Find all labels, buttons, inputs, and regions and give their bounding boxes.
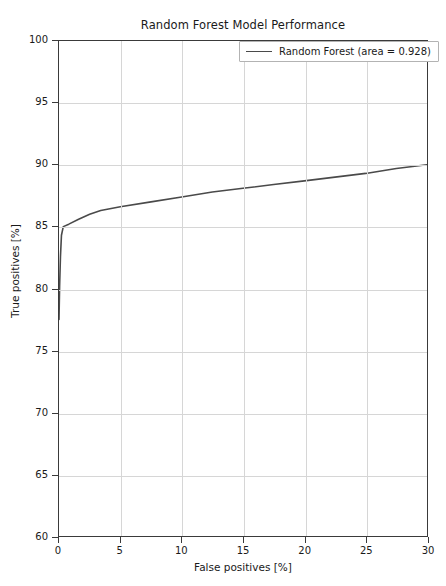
x-axis-tick-label: 30 bbox=[408, 545, 446, 556]
gridline-horizontal bbox=[59, 352, 427, 353]
y-axis-tick bbox=[52, 475, 58, 476]
y-axis-tick-label: 80 bbox=[0, 283, 48, 294]
y-axis-tick-label: 85 bbox=[0, 220, 48, 231]
x-axis-tick bbox=[305, 537, 306, 543]
y-axis-tick-label: 75 bbox=[0, 345, 48, 356]
gridline-horizontal bbox=[59, 103, 427, 104]
gridline-vertical bbox=[367, 41, 368, 536]
gridline-vertical bbox=[306, 41, 307, 536]
y-axis-tick-label: 70 bbox=[0, 407, 48, 418]
y-axis-tick-label: 95 bbox=[0, 96, 48, 107]
chart-figure: Random Forest Model Performance True pos… bbox=[0, 0, 446, 586]
x-axis-tick bbox=[58, 537, 59, 543]
legend-line-swatch bbox=[246, 51, 272, 52]
gridline-vertical bbox=[244, 41, 245, 536]
legend-item-label: Random Forest (area = 0.928) bbox=[279, 46, 431, 57]
page-title: Random Forest Model Performance bbox=[58, 18, 428, 32]
gridline-vertical bbox=[121, 41, 122, 536]
gridline-horizontal bbox=[59, 290, 427, 291]
x-axis-tick bbox=[243, 537, 244, 543]
x-axis-tick bbox=[181, 537, 182, 543]
gridline-horizontal bbox=[59, 227, 427, 228]
x-axis-tick-label: 25 bbox=[346, 545, 386, 556]
y-axis-tick bbox=[52, 40, 58, 41]
x-axis-tick bbox=[120, 537, 121, 543]
x-axis-tick bbox=[366, 537, 367, 543]
y-axis-tick-label: 60 bbox=[0, 531, 48, 542]
y-axis-tick-label: 100 bbox=[0, 34, 48, 45]
gridline-horizontal bbox=[59, 476, 427, 477]
y-axis-tick bbox=[52, 164, 58, 165]
roc-curve bbox=[59, 41, 427, 536]
x-axis-label: False positives [%] bbox=[58, 561, 428, 573]
x-axis-tick-label: 15 bbox=[223, 545, 263, 556]
y-axis-tick bbox=[52, 413, 58, 414]
series-line bbox=[59, 165, 427, 320]
y-axis-tick bbox=[52, 351, 58, 352]
y-axis-tick-label: 65 bbox=[0, 469, 48, 480]
plot-area bbox=[58, 40, 428, 537]
y-axis-tick bbox=[52, 102, 58, 103]
y-axis-tick bbox=[52, 289, 58, 290]
gridline-vertical bbox=[182, 41, 183, 536]
y-axis-tick bbox=[52, 226, 58, 227]
x-axis-tick-label: 5 bbox=[100, 545, 140, 556]
x-axis-tick-label: 0 bbox=[38, 545, 78, 556]
x-axis-tick-label: 20 bbox=[285, 545, 325, 556]
gridline-horizontal bbox=[59, 165, 427, 166]
gridline-horizontal bbox=[59, 414, 427, 415]
legend: Random Forest (area = 0.928) bbox=[239, 41, 439, 62]
y-axis-tick-label: 90 bbox=[0, 158, 48, 169]
x-axis-tick-label: 10 bbox=[161, 545, 201, 556]
x-axis-tick bbox=[428, 537, 429, 543]
